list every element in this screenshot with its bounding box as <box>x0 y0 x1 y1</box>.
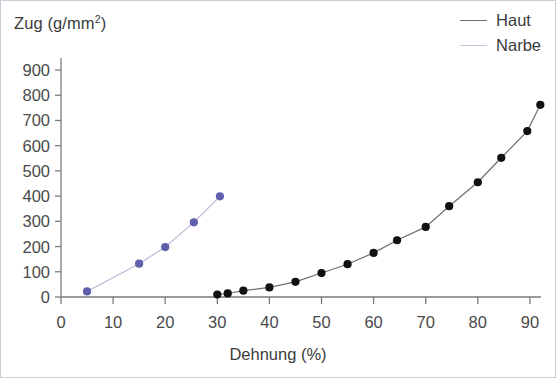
x-tick-label: 0 <box>41 314 81 331</box>
y-tick-label: 900 <box>4 62 50 79</box>
data-point-haut <box>497 154 505 162</box>
data-point-haut <box>445 202 453 210</box>
data-point-haut <box>224 289 232 297</box>
data-point-narbe <box>83 287 91 295</box>
y-tick-label: 600 <box>4 138 50 155</box>
series-line-narbe <box>87 196 220 291</box>
x-tick-label: 80 <box>458 314 498 331</box>
data-point-narbe <box>135 260 143 268</box>
data-point-haut <box>343 260 351 268</box>
x-tick-label: 70 <box>406 314 446 331</box>
x-tick-label: 30 <box>197 314 237 331</box>
x-tick-label: 10 <box>93 314 133 331</box>
y-tick-label: 300 <box>4 213 50 230</box>
data-point-haut <box>317 269 325 277</box>
data-point-haut <box>523 127 531 135</box>
data-point-haut <box>213 290 221 298</box>
x-tick-label: 50 <box>302 314 342 331</box>
y-tick-label: 400 <box>4 188 50 205</box>
y-tick-label: 800 <box>4 87 50 104</box>
data-point-haut <box>474 178 482 186</box>
data-point-haut <box>536 101 544 109</box>
y-tick-label: 0 <box>4 289 50 306</box>
chart-figure: Zug (g/mm2) Haut Narbe 90080070060050040… <box>0 0 556 378</box>
data-point-narbe <box>190 218 198 226</box>
axis-layer <box>55 58 541 304</box>
data-point-haut <box>239 287 247 295</box>
x-axis-label: Dehnung (%) <box>1 345 555 364</box>
data-point-haut <box>422 223 430 231</box>
series-line-haut <box>217 105 540 295</box>
y-tick-label: 500 <box>4 163 50 180</box>
series-layer <box>83 101 544 299</box>
data-point-haut <box>265 283 273 291</box>
data-point-narbe <box>216 192 224 200</box>
data-point-haut <box>291 278 299 286</box>
x-tick-label: 40 <box>249 314 289 331</box>
y-tick-label: 200 <box>4 239 50 256</box>
data-point-narbe <box>161 243 169 251</box>
x-tick-label: 90 <box>510 314 550 331</box>
y-tick-label: 100 <box>4 264 50 281</box>
y-tick-label: 700 <box>4 112 50 129</box>
x-tick-label: 60 <box>354 314 394 331</box>
data-point-haut <box>370 249 378 257</box>
x-tick-label: 20 <box>145 314 185 331</box>
data-point-haut <box>393 236 401 244</box>
